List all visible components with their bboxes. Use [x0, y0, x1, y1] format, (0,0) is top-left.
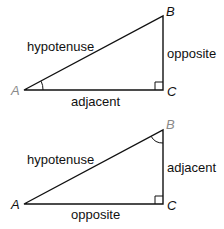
- triangle-outline: [24, 130, 163, 204]
- vertex-b-label: B: [166, 117, 175, 132]
- vertex-a-label: A: [10, 197, 20, 212]
- vertex-c-label: C: [167, 84, 177, 99]
- angle-arc-a: [41, 81, 43, 90]
- angle-arc-b: [151, 136, 163, 143]
- hypotenuse-label: hypotenuse: [27, 39, 94, 54]
- right-angle-marker: [155, 82, 163, 90]
- vertex-a-label: A: [10, 83, 20, 98]
- right-angle-marker: [155, 196, 163, 204]
- triangle-bottom: A B C hypotenuse adjacent opposite: [10, 117, 217, 222]
- adjacent-label: adjacent: [167, 160, 217, 175]
- vertex-b-label: B: [166, 4, 175, 19]
- triangle-top: A B C hypotenuse opposite adjacent: [10, 4, 216, 109]
- diagram-canvas: A B C hypotenuse opposite adjacent A B C…: [0, 0, 224, 229]
- hypotenuse-label: hypotenuse: [27, 152, 94, 167]
- adjacent-label: adjacent: [71, 94, 121, 109]
- vertex-c-label: C: [167, 198, 177, 213]
- opposite-label: opposite: [71, 207, 120, 222]
- opposite-label: opposite: [167, 46, 216, 61]
